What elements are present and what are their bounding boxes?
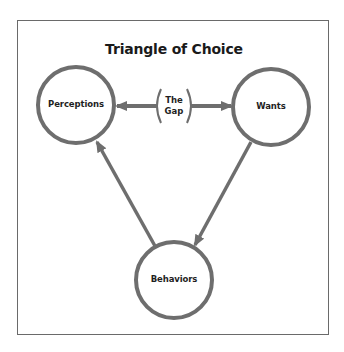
gap-label: The Gap: [159, 95, 189, 117]
gap-label-line2: Gap: [159, 106, 189, 117]
arrow-wants-to-behaviors: [195, 142, 251, 245]
diagram-canvas: Triangle of Choice Perceptions Wants Beh…: [0, 0, 344, 352]
diagram-graphics: [0, 0, 344, 352]
node-label-perceptions: Perceptions: [36, 99, 116, 109]
node-label-behaviors: Behaviors: [134, 274, 214, 284]
arrow-behaviors-to-perceptions: [97, 142, 155, 246]
node-label-wants: Wants: [231, 101, 311, 111]
gap-label-line1: The: [159, 95, 189, 106]
